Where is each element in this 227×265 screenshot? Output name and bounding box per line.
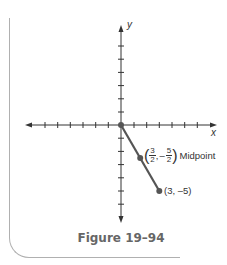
endpoint-point (156, 188, 162, 194)
coordinate-plane (0, 0, 227, 265)
origin-point (118, 122, 124, 128)
x-axis-label: x (211, 127, 216, 138)
midpoint-label: ( 3 2 , – 5 2 ) Midpoint (144, 147, 215, 164)
figure-caption: Figure 19–94 (0, 231, 227, 245)
endpoint-label: (3, –5) (164, 185, 191, 196)
midpoint-point (137, 155, 143, 161)
y-axis-down-arrow-icon (119, 216, 124, 223)
midpoint-text: Midpoint (180, 150, 216, 161)
x-axis-left-arrow-icon (25, 123, 32, 128)
y-axis-up-arrow-icon (119, 25, 124, 32)
y-axis-label: y (127, 19, 132, 30)
